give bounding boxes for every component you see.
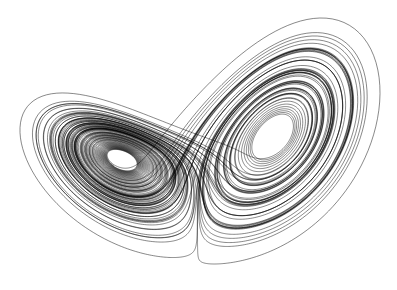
lorenz-attractor-figure: Lorenz attractor	[0, 0, 397, 290]
lorenz-attractor-plot	[0, 0, 397, 290]
